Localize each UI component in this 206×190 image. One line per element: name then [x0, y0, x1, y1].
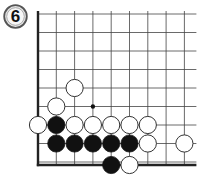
white-stone	[121, 156, 138, 173]
black-stone	[121, 135, 138, 152]
black-stone	[48, 116, 65, 133]
black-stone	[103, 135, 120, 152]
white-stone	[121, 116, 138, 133]
white-stone	[84, 116, 101, 133]
white-stone	[66, 116, 83, 133]
black-stone	[48, 135, 65, 152]
black-stone	[84, 135, 101, 152]
white-stone	[176, 135, 193, 152]
white-stone	[48, 98, 65, 115]
black-stone	[66, 135, 83, 152]
black-stone	[103, 156, 120, 173]
go-board	[0, 0, 206, 190]
point-marker-dot	[91, 104, 95, 108]
white-stone	[139, 135, 156, 152]
markers-layer	[91, 104, 95, 108]
white-stone	[103, 116, 120, 133]
white-stone	[139, 116, 156, 133]
white-stone	[66, 79, 83, 96]
white-stone	[29, 116, 46, 133]
diagram-number: 6	[3, 4, 28, 29]
